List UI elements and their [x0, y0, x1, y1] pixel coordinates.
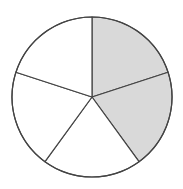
fraction-diagram [0, 0, 183, 189]
fraction-circle [0, 0, 183, 189]
